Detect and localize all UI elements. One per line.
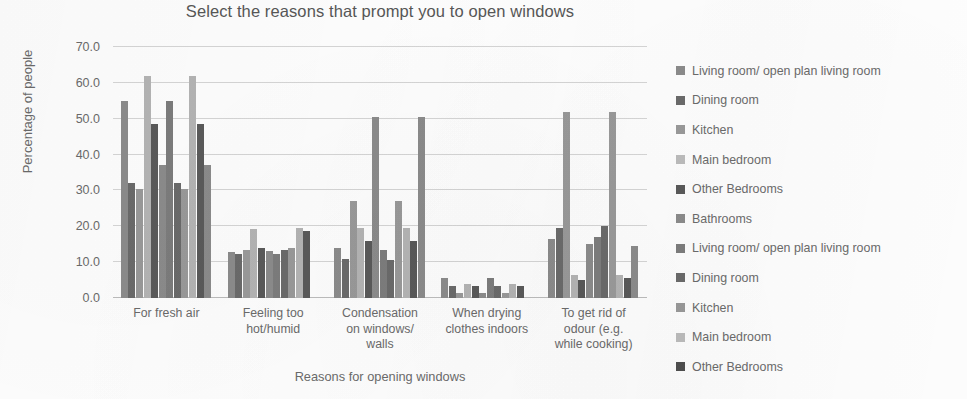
bar [509,284,516,298]
bar [472,286,479,298]
bar [189,76,196,298]
bar [235,254,242,298]
x-tick-label: Condensationon windows/walls [327,306,434,353]
bar [159,165,166,298]
legend-swatch-icon [676,96,685,105]
legend-item-label: Other Bedrooms [692,360,783,374]
y-tick-label: 30.0 [76,183,100,197]
bar [556,228,563,298]
x-tick-label-line: odour (e.g. [540,322,647,338]
bar [578,280,585,298]
legend-item[interactable]: Living room/ open plan living room [676,56,964,86]
bar [464,284,471,298]
x-tick-label-line: Condensation [327,306,434,322]
legend-item[interactable]: Bathrooms [676,204,964,234]
chart-title: Select the reasons that prompt you to op… [0,2,760,21]
y-axis-title: Percentage of people [20,7,35,217]
legend-item[interactable]: Dining room [676,86,964,116]
legend-item[interactable]: Main bedroom [676,322,964,352]
legend-item[interactable]: Kitchen [676,293,964,323]
bar [502,293,509,298]
bar [586,244,593,298]
bar [616,275,623,298]
bar [631,246,638,298]
y-tick-label: 20.0 [76,219,100,233]
bar [517,286,524,298]
x-tick-label: To get rid ofodour (e.g.while cooking) [540,306,647,353]
bar [365,241,372,298]
legend-item-label: Main bedroom [692,330,771,344]
x-tick-label-line: Feeling too [220,306,327,322]
legend-item-label: Other Bedrooms [692,182,783,196]
bar [281,250,288,298]
legend-item[interactable]: Dining room [676,263,964,293]
plot-area [113,47,647,298]
legend-item[interactable]: Kitchen [676,115,964,145]
bar [479,293,486,298]
bar [288,248,295,298]
bar [624,278,631,298]
legend-swatch-icon [676,303,685,312]
legend-item[interactable]: Other Bedrooms [676,352,964,382]
bar [380,250,387,298]
y-tick-label: 10.0 [76,255,100,269]
bar [243,250,250,298]
legend-item-label: Main bedroom [692,153,771,167]
bar [601,226,608,298]
legend-item[interactable]: Main bedroom [676,145,964,175]
legend-item-label: Dining room [692,93,759,107]
legend-item-label: Bathrooms [692,212,752,226]
legend-item-label: Kitchen [692,123,733,137]
bar [395,201,402,298]
bar [342,259,349,298]
y-tick-label: 60.0 [76,76,100,90]
bar [350,201,357,298]
bar [121,101,128,298]
legend-swatch-icon [676,155,685,164]
bar [372,117,379,298]
bar [228,252,235,298]
bar [166,101,173,298]
legend-item[interactable]: Other Bedrooms [676,174,964,204]
legend-swatch-icon [676,244,685,253]
bar [128,183,135,298]
bar [303,231,310,298]
y-tick-label: 40.0 [76,148,100,162]
bar [296,228,303,298]
x-tick-label-line: on windows/ [327,322,434,338]
bar [418,117,425,298]
bar [571,275,578,298]
bar [410,241,417,298]
x-tick-label: For fresh air [113,306,220,322]
bar-group [441,47,532,298]
x-tick-label-line: To get rid of [540,306,647,322]
x-tick-label: Feeling toohot/humid [220,306,327,337]
y-tick-label: 50.0 [76,112,100,126]
chart-legend: Living room/ open plan living roomDining… [676,56,964,382]
bar [334,248,341,298]
legend-item-label: Living room/ open plan living room [692,64,881,78]
bar [609,112,616,298]
bar [449,286,456,298]
bar [258,248,265,298]
y-tick-label: 70.0 [76,40,100,54]
x-tick-label-line: clothes indoors [433,322,540,338]
legend-item-label: Kitchen [692,301,733,315]
x-tick-label-line: while cooking) [540,337,647,353]
bar-group [121,47,212,298]
bar [144,76,151,298]
legend-item[interactable]: Living room/ open plan living room [676,234,964,264]
bar [494,286,501,298]
x-tick-label: When dryingclothes indoors [433,306,540,337]
bar [548,239,555,298]
bar [357,228,364,298]
legend-item-label: Dining room [692,271,759,285]
bars-layer [113,47,647,298]
bar [266,251,273,298]
legend-swatch-icon [676,214,685,223]
legend-swatch-icon [676,362,685,371]
bar [387,260,394,298]
legend-swatch-icon [676,185,685,194]
y-axis-tick-labels: 0.010.020.030.040.050.060.070.0 [46,40,108,305]
bar [487,278,494,298]
